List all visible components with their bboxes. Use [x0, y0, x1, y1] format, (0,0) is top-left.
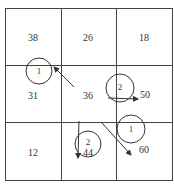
circle-label-2-right: 2	[112, 83, 128, 92]
circle-label-1-left: 1	[31, 67, 47, 76]
cell-r1c1: 36	[76, 91, 100, 101]
cell-r0c1: 26	[76, 33, 100, 43]
arrow-to-circle-1	[54, 67, 74, 87]
cell-r0c0: 38	[21, 33, 45, 43]
cell-r0c2: 18	[132, 33, 156, 43]
cell-r2c2: 60	[132, 145, 156, 155]
cell-r1c2: 50	[133, 90, 157, 100]
cell-r2c0: 12	[21, 148, 45, 158]
circle-label-1-bottom-right: 1	[123, 125, 139, 134]
cell-r2c1: 44	[76, 148, 100, 158]
cell-r1c0: 31	[21, 91, 45, 101]
grid-diagram: 38 26 18 31 36 50 12 44 60 1 2 1 2	[0, 0, 174, 188]
circle-label-2-bottom: 2	[80, 138, 96, 147]
